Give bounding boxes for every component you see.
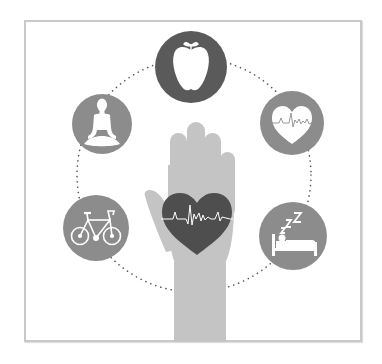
- health-illustration: [0, 0, 382, 364]
- exercise-bicycle-circle: [63, 195, 129, 261]
- nutrition-apple-circle: [155, 31, 227, 103]
- sleep-circle: [259, 202, 327, 270]
- cardio-heart-circle: [260, 91, 324, 155]
- meditation-circle: [72, 94, 132, 154]
